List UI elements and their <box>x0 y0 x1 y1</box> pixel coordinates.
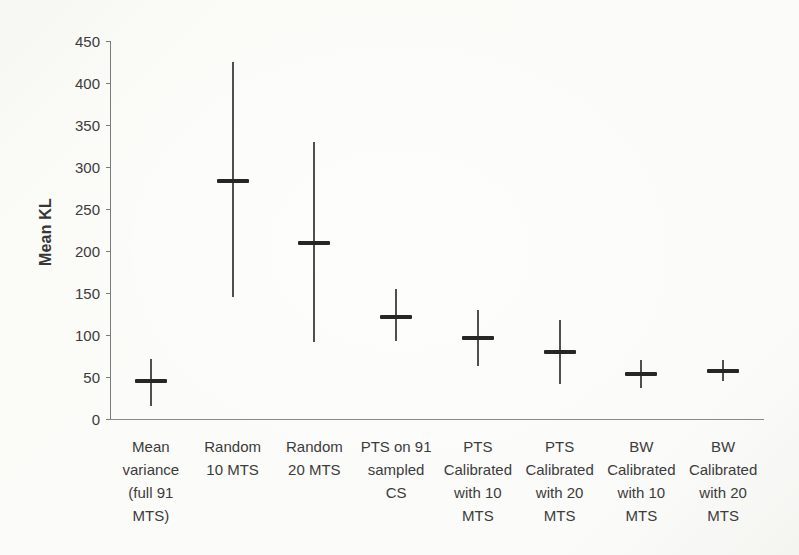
mean-marker <box>298 241 330 245</box>
y-tick-mark <box>106 83 110 84</box>
y-tick-label: 0 <box>56 412 100 427</box>
y-tick-mark <box>106 167 110 168</box>
x-category-label: Random20 MTS <box>271 435 357 481</box>
y-tick-label: 100 <box>56 328 100 343</box>
x-category-label: PTSCalibratedwith 10MTS <box>435 435 521 527</box>
y-tick-mark <box>106 293 110 294</box>
y-tick-mark <box>106 377 110 378</box>
mean-marker <box>380 315 412 319</box>
y-tick-label: 50 <box>56 370 100 385</box>
y-tick-label: 400 <box>56 76 100 91</box>
y-tick-mark <box>106 209 110 210</box>
x-category-label: Meanvariance(full 91MTS) <box>108 435 194 527</box>
y-axis-line <box>110 41 111 420</box>
mean-kl-error-bar-chart: Mean KL 450400350300250200150100500 Mean… <box>0 0 799 555</box>
y-tick-mark <box>106 251 110 252</box>
y-tick-label: 450 <box>56 34 100 49</box>
y-tick-label: 150 <box>56 286 100 301</box>
y-tick-label: 350 <box>56 118 100 133</box>
y-tick-mark <box>106 41 110 42</box>
y-tick-mark <box>106 419 110 420</box>
mean-marker <box>462 336 494 340</box>
y-tick-label: 250 <box>56 202 100 217</box>
scanned-chart-page: Mean KL 450400350300250200150100500 Mean… <box>0 0 799 555</box>
mean-marker <box>625 372 657 376</box>
y-tick-label: 200 <box>56 244 100 259</box>
mean-marker <box>217 179 249 183</box>
mean-marker <box>135 379 167 383</box>
y-tick-mark <box>106 335 110 336</box>
y-tick-mark <box>106 125 110 126</box>
x-category-label: BWCalibratedwith 10MTS <box>598 435 684 527</box>
y-axis-title: Mean KL <box>37 157 57 307</box>
x-category-label: Random10 MTS <box>190 435 276 481</box>
x-axis-line <box>110 419 764 420</box>
x-category-label: BWCalibratedwith 20MTS <box>680 435 766 527</box>
y-tick-label: 300 <box>56 160 100 175</box>
x-category-label: PTS on 91sampledCS <box>353 435 439 504</box>
mean-marker <box>707 369 739 373</box>
mean-marker <box>544 350 576 354</box>
x-category-label: PTSCalibratedwith 20MTS <box>517 435 603 527</box>
